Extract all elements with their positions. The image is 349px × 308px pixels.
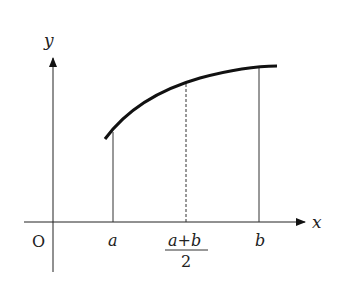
origin-label: O [32,232,45,251]
graph-canvas: y x O a a+b 2 b [0,0,349,308]
label-midpoint-denominator: 2 [181,252,191,271]
x-axis-label: x [312,212,322,232]
y-axis-label: y [43,30,54,50]
label-b: b [255,231,265,250]
label-midpoint-numerator: a+b [168,231,201,250]
label-a: a [108,231,118,250]
function-curve [105,66,277,139]
diagram: y x O a a+b 2 b [0,0,349,308]
